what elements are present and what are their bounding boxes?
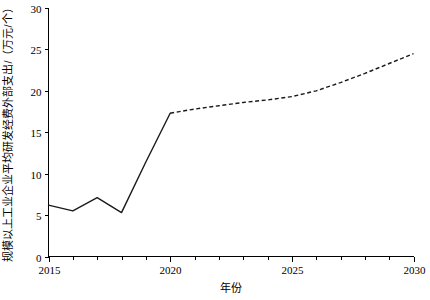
x-tick-label: 2030 xyxy=(404,264,427,276)
y-tick-label: 15 xyxy=(31,127,43,139)
x-tick-label: 2020 xyxy=(160,264,183,276)
line-chart: 051015202530 2015202020252030 年份 规模以上工业企… xyxy=(0,0,430,300)
y-tick-label: 30 xyxy=(31,3,43,15)
y-tick-label: 0 xyxy=(36,252,42,264)
chart-container: 051015202530 2015202020252030 年份 规模以上工业企… xyxy=(0,0,430,300)
y-tick-label: 5 xyxy=(36,210,42,222)
y-tick-label: 20 xyxy=(31,86,43,98)
x-tick-label: 2015 xyxy=(39,264,62,276)
chart-background xyxy=(0,0,430,300)
y-tick-label: 25 xyxy=(31,44,43,56)
y-axis-title: 规模以上工业企业平均研发经费外部支出/（万元/个） xyxy=(1,2,14,261)
x-tick-label: 2025 xyxy=(282,264,305,276)
x-axis-title: 年份 xyxy=(220,281,242,294)
y-tick-label: 10 xyxy=(31,169,43,181)
